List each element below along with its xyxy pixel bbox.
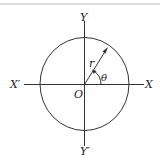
radius-arrowhead-icon <box>103 47 109 54</box>
label-radius: r <box>89 58 94 69</box>
label-origin: O <box>74 89 83 100</box>
diagram-canvas <box>0 0 160 161</box>
label-y-positive: Y <box>80 12 87 23</box>
label-x-negative: X′ <box>10 79 20 90</box>
angle-arc <box>94 71 101 85</box>
label-x-positive: X <box>145 79 153 90</box>
polar-coordinate-diagram: Y Y′ X X′ O r θ <box>0 0 160 161</box>
label-y-negative: Y′ <box>80 146 90 157</box>
label-angle: θ <box>101 73 107 83</box>
angle-arrowhead-icon <box>93 70 97 75</box>
